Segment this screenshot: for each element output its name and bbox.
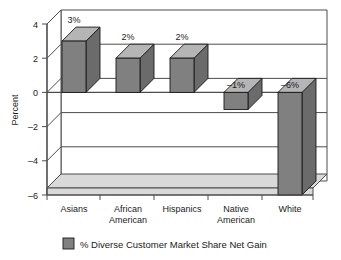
x-category-label-asians: Asians [60,204,88,214]
x-category-label-white: White [278,204,301,214]
bar-white [278,78,316,195]
bar-chart: 4 2 0 –2 –4 –6 Percent 3% 2% 2% [0,0,341,260]
y-tick-label-neg6: –6 [28,191,38,201]
y-axis-ticks [42,24,47,195]
y-tick-label-neg2: –2 [28,122,38,132]
legend-label: % Diverse Customer Market Share Net Gain [80,239,267,250]
bar-asians [62,27,100,92]
x-category-label-african-american-line1: African [114,204,142,214]
bar-label-native-american: –1% [227,80,245,90]
plot-left-wall [47,10,61,195]
bar-label-hispanics: 2% [175,32,188,42]
y-tick-label-neg4: –4 [28,156,38,166]
x-category-label-native-american-line1: Native [223,204,249,214]
x-axis-ticks [47,195,313,200]
x-category-label-hispanics: Hispanics [162,204,202,214]
bar-label-african-american: 2% [121,32,134,42]
x-category-label-native-american-line2: American [217,215,255,225]
legend-swatch [63,238,74,249]
plot-floor-front [47,188,313,195]
y-tick-label-0: 0 [33,88,38,98]
bar-label-white: –6% [281,80,299,90]
chart-canvas: 4 2 0 –2 –4 –6 Percent 3% 2% 2% [0,0,341,260]
y-tick-label-2: 2 [33,54,38,64]
y-tick-label-4: 4 [33,20,38,30]
bar-label-asians: 3% [67,15,80,25]
y-axis-title: Percent [10,94,20,126]
x-category-label-african-american-line2: American [109,215,147,225]
chart-legend: % Diverse Customer Market Share Net Gain [63,238,267,250]
